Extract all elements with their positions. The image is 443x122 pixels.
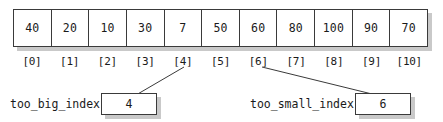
index-label: [6]	[239, 54, 277, 70]
index-label: [1]	[51, 54, 89, 70]
index-label: [8]	[315, 54, 353, 70]
index-label: [4]	[164, 54, 202, 70]
index-label: [3]	[126, 54, 164, 70]
index-label: [7]	[277, 54, 315, 70]
index-label: [10]	[390, 54, 428, 70]
index-label-row: [0] [1] [2] [3] [4] [5] [6] [7] [8] [9] …	[13, 54, 428, 70]
index-label: [5]	[202, 54, 240, 70]
variable-too-big-index: too_big_index 4	[10, 93, 157, 115]
array-cell: 60	[240, 10, 278, 46]
array-cell: 80	[277, 10, 315, 46]
variable-value-too-small-index: 6	[355, 93, 411, 115]
array-cell: 7	[165, 10, 203, 46]
variable-box-wrap-too-big-index: 4	[101, 93, 157, 115]
index-label: [2]	[88, 54, 126, 70]
variable-value-too-big-index: 4	[101, 93, 157, 115]
variable-label-too-big-index: too_big_index	[10, 93, 100, 115]
variable-too-small-index: too_small_index 6	[250, 93, 411, 115]
array-pointer-diagram: 40 20 10 30 7 50 60 80 100 90 70 [0] [1]…	[0, 0, 443, 122]
array-cell: 10	[89, 10, 127, 46]
variable-box-wrap-too-small-index: 6	[355, 93, 411, 115]
array-cell: 40	[14, 10, 52, 46]
array-cell: 30	[127, 10, 165, 46]
leader-line-too-small-index	[262, 67, 372, 94]
array-cell: 50	[202, 10, 240, 46]
array-cell: 100	[315, 10, 353, 46]
variable-label-too-small-index: too_small_index	[250, 93, 354, 115]
index-label: [9]	[353, 54, 391, 70]
array-cell: 90	[353, 10, 391, 46]
leader-line-too-big-index	[136, 67, 184, 95]
array-cell: 20	[52, 10, 90, 46]
index-label: [0]	[13, 54, 51, 70]
array-container: 40 20 10 30 7 50 60 80 100 90 70	[13, 9, 428, 47]
array-cell: 70	[390, 10, 427, 46]
